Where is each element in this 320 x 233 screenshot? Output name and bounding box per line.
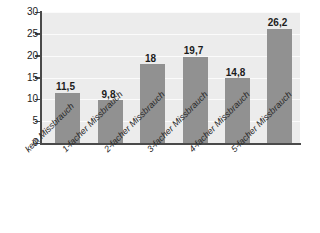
y-tick-label-10: 10 <box>8 94 38 104</box>
y-tick-label-30: 30 <box>8 7 38 17</box>
gridline <box>41 78 300 79</box>
y-tick-label-20: 20 <box>8 51 38 61</box>
y-tick-label-15: 15 <box>8 73 38 83</box>
x-axis-line <box>40 143 301 145</box>
bar-value-label: 11,5 <box>45 81 86 92</box>
bar-value-label: 14,8 <box>215 67 256 78</box>
bar-value-label: 26,2 <box>257 17 298 28</box>
y-tick-label-25: 25 <box>8 29 38 39</box>
bar-value-label: 18 <box>130 53 171 64</box>
y-tick-label-5: 5 <box>8 116 38 126</box>
bar-value-label: 19,7 <box>173 45 214 56</box>
y-axis-line <box>40 11 42 144</box>
bar-chart: 30 25 20 15 10 5 0 11,5 9,8 18 19,7 14,8… <box>0 0 320 233</box>
gridline <box>41 34 300 35</box>
bar-5-facher-missbrauch <box>267 29 292 143</box>
gridline <box>41 12 300 13</box>
